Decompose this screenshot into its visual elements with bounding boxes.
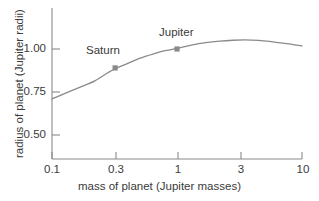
y-axis-title: radius of planet (Jupiter radii) (14, 9, 26, 158)
x-tick-label-1: 1 (158, 164, 198, 176)
x-tick-label-10: 10 (283, 164, 319, 176)
y-tick-label-0-75: 0.75 (6, 86, 46, 98)
y-tick-label-0-50: 0.50 (6, 129, 46, 141)
annotation-saturn: Saturn (86, 45, 120, 57)
annotation-jupiter: Jupiter (159, 27, 194, 39)
data-point-jupiter (174, 46, 179, 51)
data-point-saturn (113, 65, 118, 70)
mass-radius-chart: 1.00 0.75 0.50 0.1 0.3 1 3 10 Saturn Jup… (0, 0, 319, 201)
y-tick-label-1-00: 1.00 (6, 43, 46, 55)
x-tick-label-3: 3 (221, 164, 261, 176)
x-axis-title: mass of planet (Jupiter masses) (0, 181, 319, 193)
x-tick-label-0-1: 0.1 (32, 164, 72, 176)
x-tick-label-0-3: 0.3 (96, 164, 136, 176)
